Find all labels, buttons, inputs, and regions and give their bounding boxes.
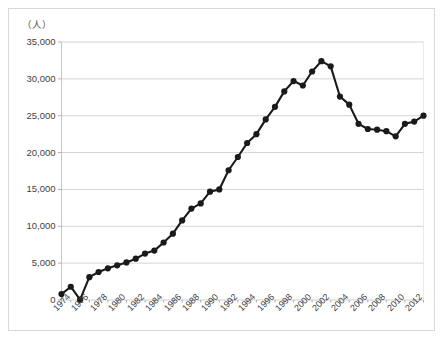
y-tick-label-30000: 30,000 bbox=[10, 73, 56, 84]
data-point-1990 bbox=[207, 189, 213, 195]
data-point-2005 bbox=[346, 102, 352, 108]
data-point-1978 bbox=[96, 269, 102, 275]
data-point-2008 bbox=[374, 127, 380, 133]
data-point-1996 bbox=[263, 116, 269, 122]
data-point-2013 bbox=[420, 113, 426, 119]
data-point-2002 bbox=[318, 58, 324, 64]
y-tick-label-5000: 5,000 bbox=[10, 257, 56, 268]
data-point-1995 bbox=[253, 131, 259, 137]
data-point-2009 bbox=[383, 128, 389, 134]
data-point-1982 bbox=[133, 256, 139, 262]
gridlines-group bbox=[62, 42, 424, 300]
data-point-2012 bbox=[411, 119, 417, 125]
data-point-1975 bbox=[68, 284, 74, 290]
y-axis-ticks-group bbox=[58, 42, 62, 300]
axis-lines-group bbox=[62, 42, 424, 300]
y-tick-label-15000: 15,000 bbox=[10, 183, 56, 194]
data-point-1997 bbox=[272, 104, 278, 110]
data-point-1977 bbox=[86, 274, 92, 280]
data-point-1992 bbox=[225, 167, 231, 173]
y-tick-label-10000: 10,000 bbox=[10, 220, 56, 231]
y-tick-label-25000: 25,000 bbox=[10, 110, 56, 121]
data-point-1983 bbox=[142, 250, 148, 256]
data-point-1999 bbox=[290, 78, 296, 84]
data-point-2000 bbox=[300, 82, 306, 88]
data-point-1979 bbox=[105, 265, 111, 271]
data-point-1998 bbox=[281, 88, 287, 94]
data-point-1988 bbox=[188, 205, 194, 211]
data-point-1981 bbox=[123, 259, 129, 265]
data-point-1989 bbox=[198, 200, 204, 206]
data-point-1984 bbox=[151, 248, 157, 254]
data-point-2004 bbox=[337, 93, 343, 99]
data-point-2006 bbox=[355, 121, 361, 127]
y-tick-label-20000: 20,000 bbox=[10, 147, 56, 158]
data-point-1987 bbox=[179, 217, 185, 223]
data-point-2007 bbox=[365, 126, 371, 132]
data-point-1993 bbox=[235, 154, 241, 160]
data-point-1994 bbox=[244, 140, 250, 146]
data-point-1980 bbox=[114, 262, 120, 268]
data-point-1991 bbox=[216, 186, 222, 192]
data-point-1986 bbox=[170, 231, 176, 237]
data-point-2010 bbox=[393, 133, 399, 139]
data-point-1985 bbox=[161, 239, 167, 245]
data-point-2011 bbox=[402, 121, 408, 127]
data-point-2003 bbox=[328, 63, 334, 69]
y-tick-label-0: 0 bbox=[10, 294, 56, 305]
data-point-2001 bbox=[309, 68, 315, 74]
y-tick-label-35000: 35,000 bbox=[10, 36, 56, 47]
